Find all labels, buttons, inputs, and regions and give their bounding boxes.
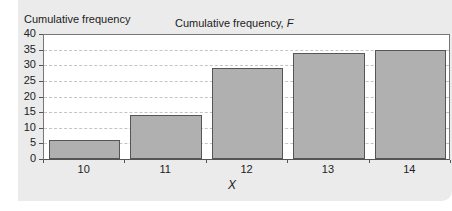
x-tick-label: 12 (227, 163, 267, 175)
bar-13 (293, 53, 364, 159)
y-tick-label: 25 (14, 74, 36, 86)
x-tick-mark (287, 160, 288, 163)
x-axis-label: X (228, 178, 236, 192)
plot-area (43, 34, 450, 160)
x-tick-label: 11 (145, 163, 185, 175)
chart-title: Cumulative frequency, F (175, 17, 293, 29)
x-tick-mark (124, 160, 125, 163)
x-tick-mark (450, 160, 451, 163)
x-tick-label: 10 (64, 163, 104, 175)
bar-14 (375, 50, 446, 159)
x-tick-mark (43, 160, 44, 163)
x-tick-mark (206, 160, 207, 163)
y-tick-label: 40 (14, 27, 36, 39)
y-axis-label: Cumulative frequency (24, 13, 130, 25)
y-tick-label: 10 (14, 121, 36, 133)
x-tick-label: 14 (389, 163, 429, 175)
bar-11 (130, 115, 201, 159)
x-tick-label: 13 (308, 163, 348, 175)
y-tick-label: 15 (14, 105, 36, 117)
y-tick-label: 35 (14, 43, 36, 55)
bar-12 (212, 68, 283, 159)
y-tick-label: 20 (14, 90, 36, 102)
y-tick-label: 0 (14, 152, 36, 164)
x-tick-mark (369, 160, 370, 163)
y-tick-label: 5 (14, 136, 36, 148)
y-tick-label: 30 (14, 58, 36, 70)
bar-10 (49, 140, 120, 159)
